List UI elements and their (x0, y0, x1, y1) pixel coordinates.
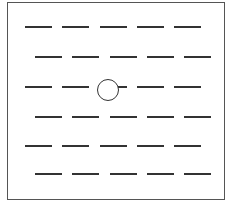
dash-segment (137, 26, 164, 28)
dash-segment (184, 173, 211, 175)
dash-segment (184, 116, 211, 118)
dash-segment (62, 145, 89, 147)
diagram-frame (7, 2, 225, 200)
dash-segment (174, 26, 201, 28)
dash-segment (110, 56, 137, 58)
dash-segment (72, 173, 99, 175)
dash-segment (62, 86, 89, 88)
dash-segment (72, 116, 99, 118)
dash-segment (184, 56, 211, 58)
dash-segment (62, 26, 89, 28)
dash-segment (72, 56, 99, 58)
dash-segment (147, 116, 174, 118)
dash-segment (25, 26, 52, 28)
dash-segment (110, 116, 137, 118)
dash-segment (137, 145, 164, 147)
dash-segment (35, 116, 62, 118)
dash-segment (35, 173, 62, 175)
dash-segment (100, 145, 127, 147)
dash-segment (174, 86, 201, 88)
dash-segment (147, 56, 174, 58)
dash-segment (25, 86, 52, 88)
dash-segment (110, 173, 137, 175)
dash-segment (35, 56, 62, 58)
dash-segment (174, 145, 201, 147)
dash-segment (137, 86, 164, 88)
dash-segment (100, 26, 127, 28)
dash-segment (147, 173, 174, 175)
circle-marker (97, 79, 119, 101)
dash-segment (25, 145, 52, 147)
